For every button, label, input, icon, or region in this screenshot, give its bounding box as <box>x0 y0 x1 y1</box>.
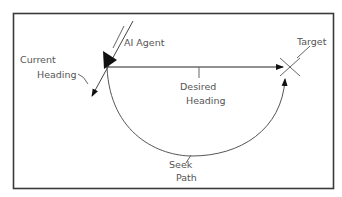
target-label: Target <box>296 36 327 47</box>
seek-diagram: AI Agent Current Heading Target Desired … <box>0 0 342 197</box>
desired-heading-label-line2: Heading <box>186 95 226 106</box>
desired-heading-label-line1: Desired <box>180 81 216 92</box>
current-heading-label-line1: Current <box>20 54 56 65</box>
current-heading-label-line2: Heading <box>37 69 77 80</box>
agent-label: AI Agent <box>124 37 165 48</box>
target-leader-line <box>297 46 310 58</box>
agent-leader-line <box>113 26 124 48</box>
seek-path-label-line1: Seek <box>169 159 193 170</box>
current-heading-leader-line <box>78 74 88 84</box>
seek-path-label-line2: Path <box>176 172 197 183</box>
